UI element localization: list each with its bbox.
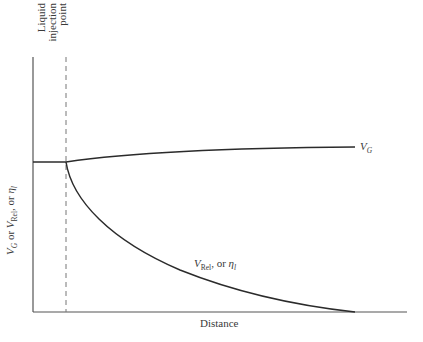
relative-velocity-curve (66, 162, 355, 312)
y-label-vg-sub: G (10, 243, 19, 248)
y-label-eta: η (4, 188, 16, 193)
injection-label-line1: Liquid (36, 3, 47, 53)
gas-velocity-curve-label: VG (360, 140, 372, 155)
y-label-vg: V (4, 248, 16, 255)
gas-label-sub: G (367, 146, 372, 155)
rel-label-sub: Rel (201, 263, 211, 272)
injection-label-line3: point (57, 3, 68, 53)
gas-velocity-curve (66, 147, 355, 162)
y-label-eta-sub: l (10, 186, 19, 188)
y-axis-label: VG or VRel, or ηl (4, 145, 18, 255)
x-axis-label: Distance (200, 317, 238, 329)
rel-label-v: V (194, 257, 201, 269)
relative-velocity-curve-label: VRel, or ηl (194, 257, 236, 272)
gas-label-v: V (360, 140, 367, 152)
rel-label-eta-sub: l (234, 263, 236, 272)
y-label-or2: , or (4, 194, 16, 211)
rel-label-or: , or (211, 257, 228, 269)
y-label-or: or (4, 228, 16, 243)
injection-point-label: Liquid injection point (36, 3, 91, 53)
y-label-vrel-sub: Rel (10, 211, 19, 221)
y-label-vrel: V (4, 221, 16, 228)
